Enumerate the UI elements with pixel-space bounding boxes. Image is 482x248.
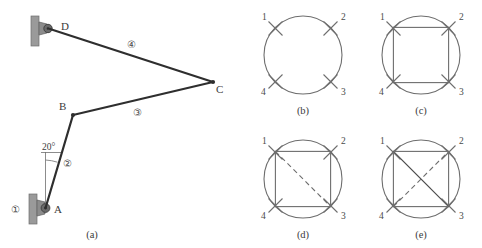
tick-marks-d [269,146,338,213]
position-label-e-1: 1 [380,136,385,146]
inscribed-square-c [393,27,448,82]
position-label-d-1: 1 [262,136,267,146]
link-3-segment-bc [73,82,213,115]
panel-b: 1 2 3 4 (b) [261,12,346,117]
position-label-d-4: 4 [261,211,266,221]
tick-marks-b [269,22,338,89]
angle-arc-20 [46,160,58,162]
joint-label-b: B [59,100,66,112]
tick-marks-c [387,22,456,89]
panel-a-caption: (a) [86,229,98,241]
position-label-b-2: 2 [341,12,346,22]
figure-canvas: D B C A ① ② ③ ④ 20° (a) [0,0,482,248]
link-1-number: ① [11,204,20,215]
position-label-b-1: 1 [262,12,267,22]
panel-a: D B C A ① ② ③ ④ 20° (a) [11,16,223,241]
position-label-c-3: 3 [459,87,464,97]
position-label-e-3: 3 [459,211,464,221]
position-label-c-4: 4 [379,87,384,97]
panel-e: 1 2 3 4 (e) [379,136,464,241]
position-label-e-4: 4 [379,211,384,221]
panel-d: 1 2 3 4 (d) [261,136,346,241]
joint-label-d: D [61,20,69,32]
position-label-b-3: 3 [341,87,346,97]
position-label-b-4: 4 [261,87,266,97]
ground-support-a [29,194,50,224]
link-4-number: ④ [127,39,136,50]
link-2-number: ② [63,158,72,169]
position-label-c-2: 2 [459,12,464,22]
position-label-e-2: 2 [459,136,464,146]
dashed-diagonal-d-1-3 [275,151,330,206]
wall-plate-d-icon [31,16,39,46]
panel-b-caption: (b) [297,105,310,117]
link-4-segment-cd [50,29,213,82]
angle-label-20: 20° [42,142,56,152]
pivot-d-center-icon [47,27,50,30]
joint-c-icon [211,80,215,84]
panel-c-caption: (c) [415,105,427,117]
joint-label-a: A [54,203,62,215]
joint-label-c: C [216,83,223,95]
wall-plate-a-icon [29,194,37,224]
panel-c: 1 2 3 4 (c) [379,12,464,117]
panel-e-caption: (e) [415,229,427,241]
figure-svg: D B C A ① ② ③ ④ 20° (a) [0,0,482,248]
position-label-d-3: 3 [341,211,346,221]
position-label-c-1: 1 [380,12,385,22]
panel-d-caption: (d) [297,229,310,241]
link-3-number: ③ [133,107,142,118]
joint-b-icon [71,113,75,117]
ground-support-d [31,16,52,46]
position-label-d-2: 2 [341,136,346,146]
